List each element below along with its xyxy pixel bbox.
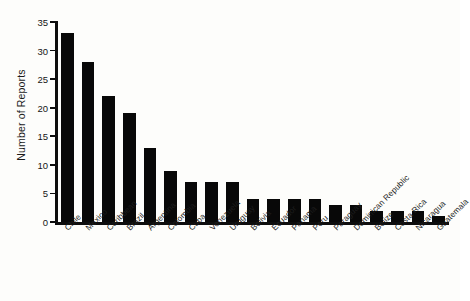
y-axis-line [55,21,58,223]
bar [82,62,95,222]
y-axis-tick-label: 35 [37,17,48,28]
y-axis-title-container: Number of Reports [6,0,36,230]
plot-area: 05101520253035 ChileMexicoCaribbeanBrazi… [57,22,449,222]
y-axis-tick [50,193,55,195]
y-axis-tick [50,107,55,109]
y-axis-tick [50,164,55,166]
y-axis-tick [50,221,55,223]
y-axis-tick-label: 20 [37,102,48,113]
y-axis-tick [50,135,55,137]
y-axis-tick-label: 15 [37,131,48,142]
y-axis-tick [50,78,55,80]
y-axis-tick-label: 30 [37,45,48,56]
y-axis-tick-label: 5 [43,188,48,199]
y-axis-tick [50,50,55,52]
bar [144,148,157,222]
y-axis-tick-label: 25 [37,74,48,85]
y-axis-tick-label: 0 [43,217,48,228]
y-axis-tick [50,21,55,23]
y-axis-tick-label: 10 [37,159,48,170]
bar [102,96,115,222]
y-axis-title: Number of Reports [15,69,27,160]
bar [61,33,74,222]
